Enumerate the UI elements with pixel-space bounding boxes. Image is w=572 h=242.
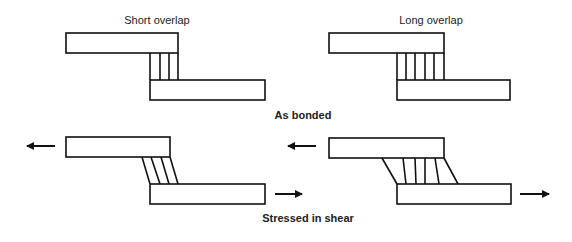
stressed-in-shear-caption: Stressed in shear — [262, 212, 354, 224]
upper-adherend — [329, 138, 444, 158]
upper-adherend — [66, 33, 178, 53]
as-bonded-caption: As bonded — [275, 109, 332, 121]
short-overlap-bonded-joint — [66, 33, 265, 100]
upper-adherend — [66, 137, 170, 157]
lower-adherend — [150, 80, 265, 100]
lower-adherend — [397, 184, 511, 204]
upper-adherend — [329, 33, 444, 53]
short-overlap-stressed-joint — [66, 137, 265, 204]
lower-adherend — [397, 80, 510, 100]
long-overlap-bonded-joint — [329, 33, 510, 100]
long-overlap-stressed-joint — [329, 138, 511, 204]
lap-joint-diagram — [0, 0, 572, 242]
lower-adherend — [150, 184, 265, 204]
long-overlap-label: Long overlap — [399, 14, 463, 26]
short-overlap-label: Short overlap — [124, 14, 189, 26]
